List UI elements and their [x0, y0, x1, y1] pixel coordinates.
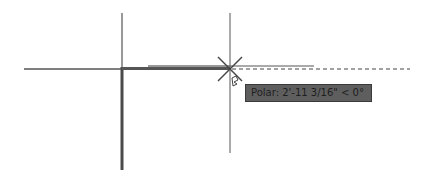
- cursor-glyph-icon: [232, 76, 238, 86]
- polar-tooltip-text: Polar: 2'-11 3/16" < 0°: [251, 87, 364, 98]
- polar-tooltip: Polar: 2'-11 3/16" < 0°: [245, 84, 372, 102]
